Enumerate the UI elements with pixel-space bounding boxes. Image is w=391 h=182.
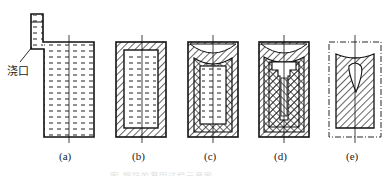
panel-a: [20, 14, 94, 143]
gate-label: 浇口: [7, 62, 29, 78]
panel-b: [116, 35, 166, 143]
panel-label-b: (b): [132, 150, 145, 162]
figure-caption: 图 钢锭的凝固过程示意图: [110, 170, 260, 176]
panel-label-c: (c): [204, 150, 216, 162]
panel-label-e: (e): [346, 150, 358, 162]
panel-label-a: (a): [59, 150, 71, 162]
panel-c: [188, 35, 238, 143]
panel-label-d: (d): [274, 150, 287, 162]
panel-d: [259, 35, 309, 143]
panel-e: [329, 35, 381, 143]
